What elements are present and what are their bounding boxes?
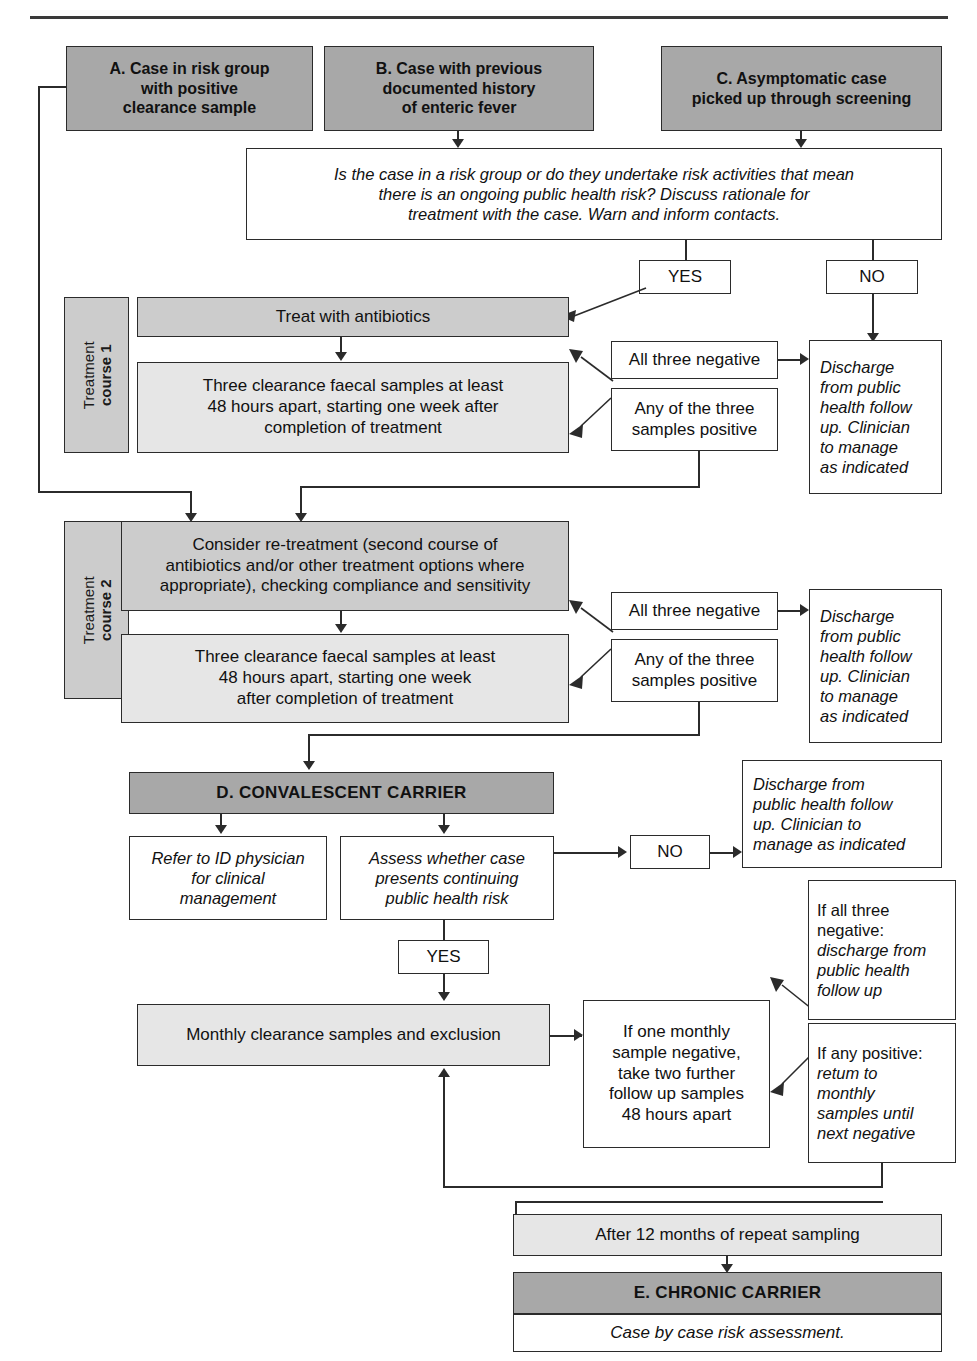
- convalescent-discharge-text: Discharge from public health follow up. …: [753, 774, 935, 855]
- decision-no-carrier-label: NO: [637, 842, 703, 863]
- chronic-carrier-box[interactable]: E. CHRONIC CARRIER: [513, 1272, 942, 1314]
- refer-id-physician-box[interactable]: Refer to ID physician for clinical manag…: [129, 836, 327, 920]
- course1-side-label: Treatment course 1: [64, 297, 129, 453]
- connector-anypos-monthly-left: [443, 1186, 883, 1188]
- course2-any-positive-label: Any of the three samples positive: [618, 650, 771, 691]
- connector-anypos1-down: [698, 451, 700, 487]
- convalescent-carrier-title: D. CONVALESCENT CARRIER: [136, 783, 547, 804]
- if-one-monthly-negative-box[interactable]: If one monthly sample negative, take two…: [583, 1000, 770, 1148]
- connector-samples2-to-any-positive: [569, 645, 615, 693]
- connector-question-to-yes: [685, 240, 687, 260]
- connector-boxa-left-stub: [38, 86, 67, 88]
- course1-discharge-text: Discharge from public health follow up. …: [820, 357, 935, 478]
- connector-anypos2-left: [308, 734, 700, 736]
- course2-retreat-text: Consider re-treatment (second course of …: [128, 535, 562, 597]
- chronic-carrier-title: E. CHRONIC CARRIER: [520, 1283, 935, 1304]
- arrowhead-b-to-question: [452, 139, 464, 148]
- course1-any-positive-box[interactable]: Any of the three samples positive: [611, 388, 778, 451]
- connector-anypos2-down: [698, 702, 700, 735]
- convalescent-carrier-box[interactable]: D. CONVALESCENT CARRIER: [129, 772, 554, 814]
- monthly-clearance-label: Monthly clearance samples and exclusion: [144, 1025, 543, 1046]
- course1-side-label-text: Treatment course 1: [79, 341, 114, 409]
- course2-samples-box[interactable]: Three clearance faecal samples at least …: [121, 634, 569, 723]
- connector-yes-to-treat: [560, 286, 650, 322]
- course1-samples-box[interactable]: Three clearance faecal samples at least …: [137, 362, 569, 453]
- course1-any-positive-label: Any of the three samples positive: [618, 399, 771, 440]
- entry-box-c[interactable]: C. Asymptomatic case picked up through s…: [661, 46, 942, 131]
- connector-question-to-no: [872, 240, 874, 260]
- monthly-clearance-box[interactable]: Monthly clearance samples and exclusion: [137, 1004, 550, 1066]
- decision-yes-carrier-label: YES: [405, 947, 482, 968]
- entry-box-c-label: C. Asymptomatic case picked up through s…: [668, 69, 935, 108]
- arrowhead-c-to-question: [795, 139, 807, 148]
- connector-to-after12-left: [515, 1201, 883, 1203]
- course2-side-label-text: Treatment course 2: [79, 576, 114, 644]
- arrowhead-assess-to-no: [618, 846, 627, 858]
- horizontal-divider: [30, 16, 948, 19]
- chronic-carrier-note: Case by case risk assessment.: [520, 1323, 935, 1344]
- connector-boxa-right: [38, 491, 190, 493]
- course2-all-negative-label: All three negative: [618, 601, 771, 622]
- if-all-three-negative-text: If all three negative: discharge from pu…: [817, 900, 949, 1001]
- course1-all-negative-label: All three negative: [618, 350, 771, 371]
- assess-risk-text: Assess whether case presents continuing …: [347, 848, 547, 908]
- course1-samples-text: Three clearance faecal samples at least …: [144, 376, 562, 438]
- arrowhead-monthly-to-ifone: [574, 1029, 583, 1041]
- connector-samples1-to-all-negative: [569, 345, 615, 385]
- course1-treat-box[interactable]: Treat with antibiotics: [137, 297, 569, 337]
- convalescent-discharge-box[interactable]: Discharge from public health follow up. …: [742, 760, 942, 868]
- decision-no-top-label: NO: [833, 267, 911, 288]
- course1-all-negative-box[interactable]: All three negative: [611, 341, 778, 379]
- after-12-months-box[interactable]: After 12 months of repeat sampling: [513, 1214, 942, 1256]
- arrowhead-yes-to-monthly: [438, 992, 450, 1001]
- arrowhead-d-to-assess: [438, 825, 450, 834]
- decision-yes-top-label: YES: [646, 267, 724, 288]
- arrowhead-allneg2-to-discharge2: [800, 604, 809, 616]
- flowchart-page: A. Case in risk group with positive clea…: [0, 0, 977, 1361]
- course2-all-negative-box[interactable]: All three negative: [611, 592, 778, 630]
- entry-box-a-label: A. Case in risk group with positive clea…: [73, 59, 306, 118]
- question-box[interactable]: Is the case in a risk group or do they u…: [246, 148, 942, 240]
- connector-boxa-down: [38, 86, 40, 492]
- decision-yes-top[interactable]: YES: [639, 260, 731, 294]
- if-one-monthly-negative-text: If one monthly sample negative, take two…: [590, 1022, 763, 1126]
- arrowhead-no-to-discharge3: [733, 846, 742, 858]
- course2-samples-text: Three clearance faecal samples at least …: [128, 647, 562, 709]
- entry-box-b[interactable]: B. Case with previous documented history…: [324, 46, 594, 131]
- course2-side-label: Treatment course 2: [64, 521, 129, 699]
- course2-any-positive-box[interactable]: Any of the three samples positive: [611, 639, 778, 702]
- refer-id-physician-text: Refer to ID physician for clinical manag…: [136, 848, 320, 908]
- connector-anypos1-left: [300, 486, 700, 488]
- connector-assess-to-yes: [443, 920, 445, 940]
- entry-box-b-label: B. Case with previous documented history…: [331, 59, 587, 118]
- course1-discharge-box[interactable]: Discharge from public health follow up. …: [809, 340, 942, 494]
- course2-retreat-box[interactable]: Consider re-treatment (second course of …: [121, 521, 569, 611]
- course1-treat-label: Treat with antibiotics: [144, 307, 562, 328]
- assess-risk-box[interactable]: Assess whether case presents continuing …: [340, 836, 554, 920]
- chronic-carrier-note-box[interactable]: Case by case risk assessment.: [513, 1314, 942, 1352]
- connector-anypos-monthly-up: [443, 1077, 445, 1187]
- course2-discharge-box[interactable]: Discharge from public health follow up. …: [809, 589, 942, 743]
- after-12-months-label: After 12 months of repeat sampling: [520, 1225, 935, 1246]
- arrowhead-retreat-to-samples2: [335, 624, 347, 633]
- if-any-positive-box[interactable]: If any positive: retum to monthly sample…: [808, 1023, 956, 1163]
- question-text: Is the case in a risk group or do they u…: [253, 164, 935, 224]
- arrowhead-anypos2-into-d: [303, 761, 315, 770]
- decision-no-carrier[interactable]: NO: [630, 835, 710, 869]
- connector-anypos-monthly-down: [881, 1163, 883, 1187]
- arrowhead-treat-to-samples1: [335, 352, 347, 361]
- if-any-positive-text: If any positive: retum to monthly sample…: [817, 1043, 949, 1144]
- if-all-three-negative-box[interactable]: If all three negative: discharge from pu…: [808, 880, 956, 1020]
- connector-samples1-to-any-positive: [569, 394, 615, 442]
- connector-samples2-to-all-negative: [569, 596, 615, 636]
- course2-discharge-text: Discharge from public health follow up. …: [820, 606, 935, 727]
- arrowhead-allneg1-to-discharge1: [800, 353, 809, 365]
- entry-box-a[interactable]: A. Case in risk group with positive clea…: [66, 46, 313, 131]
- connector-after12-stem: [515, 1201, 517, 1214]
- decision-yes-carrier[interactable]: YES: [398, 940, 489, 974]
- decision-no-top[interactable]: NO: [826, 260, 918, 294]
- connector-assess-to-no: [554, 852, 622, 854]
- arrowhead-d-to-refer: [215, 825, 227, 834]
- arrowhead-anypos-monthly-up: [438, 1068, 450, 1077]
